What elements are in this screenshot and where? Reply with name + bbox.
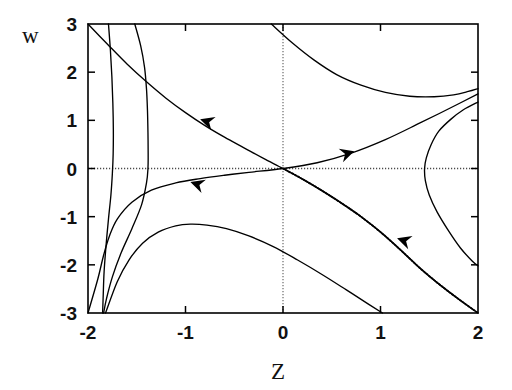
phase-portrait-figure: -2-1012 3210-1-2-3 w Z [0, 0, 512, 390]
y-tick-label: -2 [60, 255, 77, 276]
x-tick-label: -2 [80, 322, 97, 343]
figure-background [0, 0, 512, 390]
y-tick-label: 2 [66, 62, 77, 83]
y-tick-label: 1 [66, 110, 77, 131]
y-axis-label: w [22, 23, 39, 48]
x-axis-label: Z [271, 359, 285, 384]
y-tick-label: 0 [66, 159, 77, 180]
x-tick-label: 0 [278, 322, 289, 343]
y-tick-label: 3 [66, 14, 77, 35]
y-tick-label: -1 [60, 207, 77, 228]
x-tick-label: -1 [177, 322, 194, 343]
x-tick-label: 1 [375, 322, 386, 343]
x-tick-label: 2 [473, 322, 484, 343]
phase-portrait-svg: -2-1012 3210-1-2-3 w Z [0, 0, 512, 390]
y-tick-label: -3 [60, 303, 77, 324]
